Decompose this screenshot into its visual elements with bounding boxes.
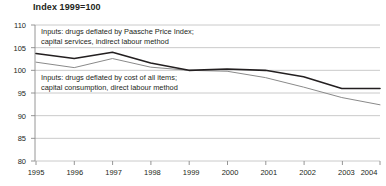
annotation-lower-line-2: capital consumption, direct labour metho…: [41, 83, 178, 93]
annotation-upper-line-2: capital services, indirect labour method: [41, 37, 194, 47]
annotation-upper-line-1: Inputs: drugs deflated by Paasche Price …: [41, 27, 194, 37]
y-axis-ticks: [31, 25, 35, 161]
x-axis-ticks: [36, 161, 380, 165]
annotation-upper: Inputs: drugs deflated by Paasche Price …: [41, 27, 194, 47]
chart-container: Index 1999=100 110 105 100 95 90 85 80 1…: [0, 0, 386, 186]
annotation-lower: Inputs: drugs deflated by cost of all it…: [41, 73, 178, 93]
annotation-lower-line-1: Inputs: drugs deflated by cost of all it…: [41, 73, 178, 83]
